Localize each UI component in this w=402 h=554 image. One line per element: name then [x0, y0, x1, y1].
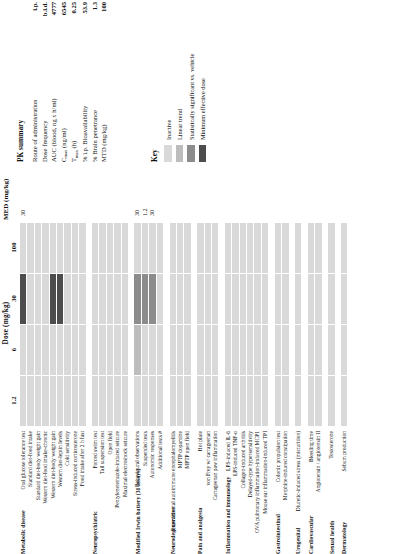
- heatmap-cell[interactable]: [308, 222, 315, 273]
- heatmap-cell[interactable]: [57, 222, 64, 273]
- heatmap-cell[interactable]: [114, 324, 121, 375]
- heatmap-cell[interactable]: [157, 324, 164, 375]
- heatmap-cell[interactable]: [197, 324, 204, 375]
- heatmap-cell[interactable]: [341, 222, 348, 273]
- heatmap-cell[interactable]: [149, 324, 156, 375]
- heatmap-cell[interactable]: [225, 324, 232, 375]
- heatmap-row[interactable]: [275, 222, 282, 426]
- heatmap-cell[interactable]: [107, 222, 114, 273]
- heatmap-cell[interactable]: [107, 375, 114, 426]
- heatmap-cell[interactable]: [315, 222, 322, 273]
- heatmap-cell[interactable]: [122, 324, 129, 375]
- heatmap-cell[interactable]: [205, 222, 212, 273]
- heatmap-cell[interactable]: [177, 273, 184, 324]
- heatmap-cell[interactable]: [64, 324, 71, 375]
- heatmap-row[interactable]: [315, 222, 322, 426]
- heatmap-cell[interactable]: [114, 222, 121, 273]
- heatmap-cell[interactable]: [35, 324, 42, 375]
- heatmap-cell[interactable]: [184, 324, 191, 375]
- heatmap-cell[interactable]: [92, 273, 99, 324]
- heatmap-cell[interactable]: [79, 375, 86, 426]
- heatmap-cell[interactable]: [205, 375, 212, 426]
- heatmap-cell[interactable]: [282, 375, 289, 426]
- heatmap-cell[interactable]: [170, 273, 177, 324]
- heatmap-cell[interactable]: [328, 222, 335, 273]
- heatmap-cell[interactable]: [20, 273, 27, 324]
- heatmap-cell[interactable]: [79, 273, 86, 324]
- heatmap-cell[interactable]: [20, 324, 27, 375]
- heatmap-cell[interactable]: [170, 324, 177, 375]
- heatmap-cell[interactable]: [134, 324, 141, 375]
- heatmap-cell[interactable]: [232, 273, 239, 324]
- heatmap-cell[interactable]: [57, 273, 64, 324]
- heatmap-cell[interactable]: [254, 273, 261, 324]
- heatmap-cell[interactable]: [295, 273, 302, 324]
- heatmap-cell[interactable]: [328, 273, 335, 324]
- heatmap-row[interactable]: [205, 222, 212, 426]
- heatmap-cell[interactable]: [341, 375, 348, 426]
- heatmap-cell[interactable]: [114, 273, 121, 324]
- heatmap-cell[interactable]: [134, 273, 141, 324]
- heatmap-cell[interactable]: [92, 222, 99, 273]
- heatmap-row[interactable]: [42, 222, 49, 426]
- heatmap-cell[interactable]: [225, 222, 232, 273]
- heatmap-cell[interactable]: [122, 273, 129, 324]
- heatmap-cell[interactable]: [254, 375, 261, 426]
- heatmap-cell[interactable]: [72, 273, 79, 324]
- heatmap-row[interactable]: [114, 222, 121, 426]
- heatmap-cell[interactable]: [99, 324, 106, 375]
- heatmap-cell[interactable]: [341, 324, 348, 375]
- heatmap-cell[interactable]: [92, 324, 99, 375]
- heatmap-cell[interactable]: [99, 375, 106, 426]
- heatmap-cell[interactable]: [315, 324, 322, 375]
- heatmap-row[interactable]: [27, 222, 34, 426]
- heatmap-cell[interactable]: [212, 222, 219, 273]
- heatmap-row[interactable]: [282, 222, 289, 426]
- heatmap-cell[interactable]: [27, 375, 34, 426]
- heatmap-cell[interactable]: [42, 273, 49, 324]
- heatmap-cell[interactable]: [262, 375, 269, 426]
- heatmap-cell[interactable]: [184, 273, 191, 324]
- heatmap-cell[interactable]: [107, 324, 114, 375]
- heatmap-row[interactable]: [142, 222, 149, 426]
- heatmap-cell[interactable]: [262, 222, 269, 273]
- heatmap-cell[interactable]: [232, 375, 239, 426]
- heatmap-cell[interactable]: [27, 324, 34, 375]
- heatmap-cell[interactable]: [170, 375, 177, 426]
- heatmap-cell[interactable]: [122, 375, 129, 426]
- heatmap-row[interactable]: [225, 222, 232, 426]
- heatmap-cell[interactable]: [64, 273, 71, 324]
- heatmap-cell[interactable]: [42, 375, 49, 426]
- heatmap-cell[interactable]: [205, 273, 212, 324]
- heatmap-cell[interactable]: [92, 375, 99, 426]
- heatmap-cell[interactable]: [57, 375, 64, 426]
- heatmap-cell[interactable]: [157, 222, 164, 273]
- heatmap-cell[interactable]: [212, 273, 219, 324]
- heatmap-cell[interactable]: [50, 222, 57, 273]
- heatmap-row[interactable]: [308, 222, 315, 426]
- heatmap-row[interactable]: [20, 222, 27, 426]
- heatmap-cell[interactable]: [184, 222, 191, 273]
- heatmap-cell[interactable]: [275, 324, 282, 375]
- heatmap-cell[interactable]: [197, 222, 204, 273]
- heatmap-cell[interactable]: [212, 375, 219, 426]
- heatmap-cell[interactable]: [212, 324, 219, 375]
- heatmap-cell[interactable]: [328, 324, 335, 375]
- heatmap-cell[interactable]: [134, 222, 141, 273]
- heatmap-cell[interactable]: [27, 222, 34, 273]
- heatmap-row[interactable]: [122, 222, 129, 426]
- heatmap-cell[interactable]: [247, 222, 254, 273]
- heatmap-cell[interactable]: [35, 273, 42, 324]
- heatmap-row[interactable]: [157, 222, 164, 426]
- heatmap-cell[interactable]: [149, 375, 156, 426]
- heatmap-cell[interactable]: [35, 375, 42, 426]
- heatmap-cell[interactable]: [308, 324, 315, 375]
- heatmap-cell[interactable]: [275, 222, 282, 273]
- heatmap-cell[interactable]: [50, 324, 57, 375]
- heatmap-cell[interactable]: [262, 324, 269, 375]
- heatmap-cell[interactable]: [142, 273, 149, 324]
- heatmap-cell[interactable]: [315, 375, 322, 426]
- heatmap-cell[interactable]: [197, 273, 204, 324]
- heatmap-cell[interactable]: [177, 324, 184, 375]
- heatmap-cell[interactable]: [72, 324, 79, 375]
